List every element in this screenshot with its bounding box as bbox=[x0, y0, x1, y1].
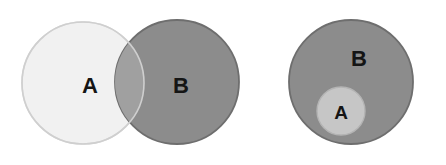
set-label-b-right: B bbox=[351, 46, 367, 71]
set-label-a-left: A bbox=[82, 73, 98, 98]
subset-venn-panel: B A bbox=[289, 20, 413, 144]
set-label-a-right: A bbox=[334, 102, 348, 123]
set-label-b-left: B bbox=[173, 73, 189, 98]
venn-diagram-canvas: A B B A bbox=[0, 0, 446, 165]
venn-diagram-figure: A B B A bbox=[0, 0, 446, 165]
